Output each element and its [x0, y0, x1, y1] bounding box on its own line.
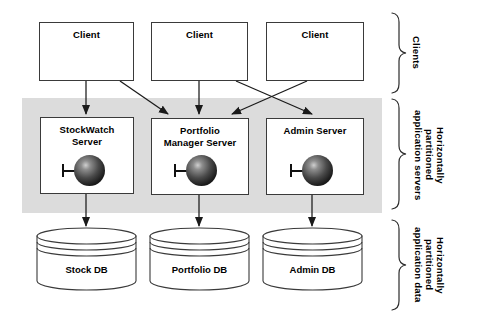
node-label: Stock DB	[36, 264, 137, 275]
node-label: Portfolio DB	[149, 264, 250, 275]
node-portfolio-manager-server[interactable]: Portfolio Manager Server	[151, 118, 249, 195]
node-label: Admin DB	[262, 264, 363, 275]
node-stock-db[interactable]: Stock DB	[36, 227, 137, 291]
brace-app-servers	[392, 99, 406, 209]
server-stem-cap-icon	[290, 164, 292, 177]
brace-clients	[392, 13, 406, 93]
node-label-line2: Server	[41, 136, 133, 148]
node-label-line1: StockWatch	[41, 124, 133, 136]
node-client-3[interactable]: Client	[266, 22, 364, 81]
node-client-2[interactable]: Client	[151, 22, 248, 81]
node-admin-server[interactable]: Admin Server	[266, 118, 364, 195]
node-label-line1: Admin Server	[267, 125, 363, 137]
node-label: Client	[152, 29, 247, 41]
server-sphere-icon	[186, 155, 217, 186]
node-label-line2: Manager Server	[152, 137, 248, 149]
node-portfolio-db[interactable]: Portfolio DB	[149, 227, 250, 291]
brace-app-data	[392, 220, 406, 310]
node-stockwatch-server[interactable]: StockWatch Server	[40, 117, 134, 194]
server-sphere-icon	[74, 155, 105, 186]
tier-label-app-data: Horizontally partitioned application dat…	[409, 220, 446, 310]
tier-label-clients: Clients	[409, 13, 422, 93]
node-label-line1: Portfolio	[152, 125, 248, 137]
server-stem-cap-icon	[174, 164, 176, 177]
server-stem-cap-icon	[62, 164, 64, 177]
node-label: Client	[40, 29, 133, 41]
node-admin-db[interactable]: Admin DB	[262, 227, 363, 291]
node-client-1[interactable]: Client	[39, 22, 134, 81]
node-label: Client	[267, 29, 363, 41]
architecture-diagram: Client Client Client StockWatch Server P…	[0, 0, 481, 317]
server-sphere-icon	[302, 155, 333, 186]
tier-label-app-servers: Horizontally partitioned application ser…	[409, 99, 446, 211]
